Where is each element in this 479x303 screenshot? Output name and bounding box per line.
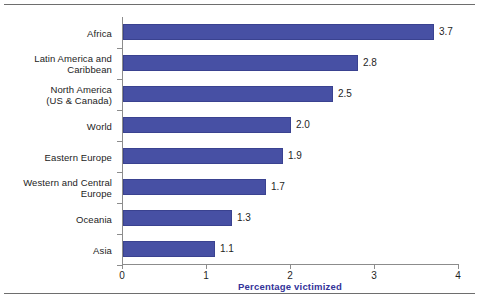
- bar-value-label: 1.1: [220, 242, 234, 256]
- bar: [123, 86, 333, 102]
- bar-chart-plot-area: Africa3.7Latin America and Caribbean2.8N…: [0, 0, 479, 303]
- x-axis-tick: [374, 264, 375, 269]
- y-axis-tick: [117, 48, 122, 49]
- x-axis-tick-label: 3: [362, 270, 386, 281]
- bar-value-label: 1.9: [288, 149, 302, 163]
- bar-row: Eastern Europe1.9: [0, 141, 479, 172]
- y-axis-tick: [117, 203, 122, 204]
- x-axis-tick: [458, 264, 459, 269]
- y-axis-tick: [117, 141, 122, 142]
- bar-value-label: 3.7: [439, 25, 453, 39]
- x-axis-tick: [122, 264, 123, 269]
- y-axis-tick: [117, 234, 122, 235]
- bar-row: Latin America and Caribbean2.8: [0, 48, 479, 79]
- x-axis-tick-label: 4: [446, 270, 470, 281]
- bar: [123, 117, 291, 133]
- bar-value-label: 2.5: [338, 87, 352, 101]
- category-label: Eastern Europe: [0, 151, 112, 162]
- category-label: Africa: [0, 27, 112, 38]
- y-axis-tick: [117, 265, 122, 266]
- category-label: Asia: [0, 244, 112, 255]
- category-label: Latin America and Caribbean: [0, 53, 112, 75]
- bar: [123, 24, 434, 40]
- x-axis-tick: [206, 264, 207, 269]
- bar-value-label: 1.3: [237, 211, 251, 225]
- x-axis-tick: [290, 264, 291, 269]
- bar-row: North America (US & Canada)2.5: [0, 79, 479, 110]
- bar: [123, 179, 266, 195]
- bar: [123, 148, 283, 164]
- bar-row: World2.0: [0, 110, 479, 141]
- bar: [123, 241, 215, 257]
- category-label: North America (US & Canada): [0, 84, 112, 106]
- bar-value-label: 2.0: [296, 118, 310, 132]
- x-axis-tick-label: 1: [194, 270, 218, 281]
- bar: [123, 55, 358, 71]
- bar-row: Western and Central Europe1.7: [0, 172, 479, 203]
- y-axis-tick: [117, 110, 122, 111]
- category-label: Oceania: [0, 213, 112, 224]
- bar-value-label: 1.7: [271, 180, 285, 194]
- bar-row: Asia1.1: [0, 234, 479, 265]
- category-label: Western and Central Europe: [0, 177, 112, 199]
- y-axis-tick: [117, 79, 122, 80]
- x-axis-tick-label: 0: [110, 270, 134, 281]
- y-axis-tick: [117, 172, 122, 173]
- bar-row: Oceania1.3: [0, 203, 479, 234]
- x-axis-tick-label: 2: [278, 270, 302, 281]
- category-label: World: [0, 120, 112, 131]
- chart-figure: Africa3.7Latin America and Caribbean2.8N…: [0, 0, 479, 303]
- x-axis-title: Percentage victimized: [122, 281, 458, 292]
- bar-row: Africa3.7: [0, 17, 479, 48]
- bar: [123, 210, 232, 226]
- bar-value-label: 2.8: [363, 56, 377, 70]
